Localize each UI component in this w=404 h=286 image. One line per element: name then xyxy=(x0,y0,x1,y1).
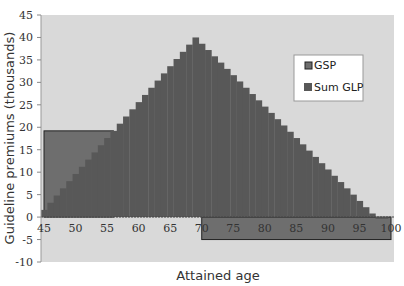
sum-glp-bar xyxy=(293,138,300,217)
sum-glp-bar xyxy=(142,95,149,217)
sum-glp-bar xyxy=(47,203,54,217)
x-axis-title: Attained age xyxy=(176,268,259,283)
x-tick-label: 80 xyxy=(258,222,272,235)
y-tick-label: 40 xyxy=(19,31,33,44)
y-tick-label: 45 xyxy=(19,9,33,22)
sum-glp-bar xyxy=(186,45,193,217)
sum-glp-bar xyxy=(224,69,231,217)
x-tick-label: 100 xyxy=(381,222,402,235)
legend-gsp-swatch xyxy=(305,62,312,69)
sum-glp-bar xyxy=(54,196,61,218)
sum-glp-bar xyxy=(117,124,124,217)
sum-glp-bar xyxy=(249,94,256,217)
sum-glp-bar xyxy=(123,116,130,217)
legend: GSP Sum GLP xyxy=(294,55,364,101)
sum-glp-bar xyxy=(161,73,168,217)
sum-glp-bar xyxy=(237,81,244,217)
sum-glp-bar xyxy=(129,109,136,217)
sum-glp-bar xyxy=(73,174,80,217)
y-tick-label: 15 xyxy=(19,144,33,157)
sum-glp-bar xyxy=(85,160,92,217)
sum-glp-bar xyxy=(218,63,225,217)
sum-glp-bar xyxy=(325,169,332,217)
sum-glp-bar xyxy=(306,151,313,217)
y-tick-label: 5 xyxy=(26,189,33,202)
y-tick-label: -5 xyxy=(22,234,33,247)
y-tick-label: -10 xyxy=(15,256,33,269)
sum-glp-bar xyxy=(350,195,357,217)
sum-glp-bar xyxy=(66,181,73,217)
sum-glp-bar xyxy=(287,132,294,217)
y-tick-label: 30 xyxy=(19,76,33,89)
legend-sum-glp-label: Sum GLP xyxy=(314,81,364,94)
x-tick-label: 65 xyxy=(163,222,177,235)
sum-glp-bar xyxy=(199,44,206,217)
sum-glp-bar xyxy=(300,144,307,217)
sum-glp-bar xyxy=(268,113,275,217)
y-tick-label: 10 xyxy=(19,166,33,179)
sum-glp-bar xyxy=(60,188,67,217)
y-axis-title: Guideline premiums (thousands) xyxy=(2,32,17,245)
sum-glp-bar xyxy=(110,131,117,217)
sum-glp-bar xyxy=(262,107,269,217)
sum-glp-bar xyxy=(338,182,345,217)
y-tick-label: 35 xyxy=(19,54,33,67)
y-tick-label: 20 xyxy=(19,121,33,134)
sum-glp-bar xyxy=(155,81,162,218)
sum-glp-bar xyxy=(211,56,218,217)
y-tick-label: 0 xyxy=(26,211,33,224)
x-tick-label: 60 xyxy=(132,222,146,235)
chart: -10-5051015202530354045 4550556065707580… xyxy=(0,0,404,286)
sum-glp-bar xyxy=(363,207,370,217)
sum-glp-bar xyxy=(281,125,288,217)
sum-glp-bar xyxy=(92,152,99,217)
sum-glp-bar xyxy=(41,210,48,217)
sum-glp-bar xyxy=(174,59,181,217)
x-tick-label: 55 xyxy=(100,222,114,235)
sum-glp-bar xyxy=(344,188,351,217)
y-tick-label: 25 xyxy=(19,99,33,112)
x-tick-label: 85 xyxy=(289,222,303,235)
x-tick-label: 70 xyxy=(195,222,209,235)
sum-glp-bar xyxy=(79,167,86,217)
sum-glp-bar xyxy=(274,119,281,217)
sum-glp-bar xyxy=(243,88,250,217)
sum-glp-bar xyxy=(357,201,364,217)
sum-glp-bar xyxy=(148,88,155,217)
sum-glp-bar xyxy=(192,37,199,217)
legend-sum-glp-swatch xyxy=(304,83,312,91)
sum-glp-bar xyxy=(319,163,326,217)
sum-glp-bar xyxy=(331,176,338,217)
sum-glp-bar xyxy=(312,157,319,217)
sum-glp-bar xyxy=(136,102,143,217)
sum-glp-bar xyxy=(104,138,111,217)
x-tick-label: 45 xyxy=(37,222,51,235)
x-tick-label: 75 xyxy=(226,222,240,235)
sum-glp-bar xyxy=(167,66,174,217)
x-tick-label: 50 xyxy=(69,222,83,235)
x-tick-label: 90 xyxy=(321,222,335,235)
sum-glp-bar xyxy=(180,52,187,217)
x-tick-label: 95 xyxy=(352,222,366,235)
sum-glp-bar xyxy=(256,100,263,217)
sum-glp-bar xyxy=(230,75,237,217)
sum-glp-bar xyxy=(205,50,212,217)
sum-glp-bar xyxy=(98,145,105,217)
legend-gsp-label: GSP xyxy=(314,59,337,72)
